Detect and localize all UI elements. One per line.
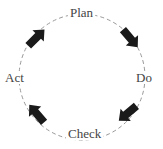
arrow-down-left-icon (114, 100, 142, 127)
stage-label-check: Check (66, 127, 103, 140)
arrow-up-left-icon (23, 100, 50, 128)
stage-label-plan: Plan (68, 6, 95, 19)
arrow-up-right-icon (23, 24, 51, 52)
arrow-down-right-icon (117, 24, 144, 52)
stage-label-do: Do (134, 71, 154, 84)
pdca-cycle-diagram: Plan Do Check Act (0, 0, 163, 149)
stage-label-act: Act (3, 71, 26, 84)
